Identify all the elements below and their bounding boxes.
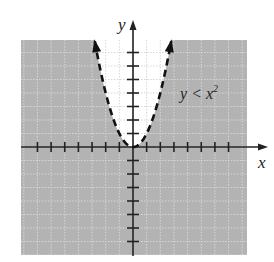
inequality-label-exponent: 2 (213, 83, 218, 94)
inequality-label-base: y < x (178, 85, 213, 103)
inequality-label: y < x2 (178, 83, 218, 103)
x-axis-label: x (257, 153, 266, 172)
inequality-graph: y x y < x2 (0, 0, 274, 262)
x-axis-arrow-icon (258, 144, 268, 151)
y-axis-label: y (116, 15, 126, 34)
y-axis-arrow-icon (130, 20, 137, 30)
